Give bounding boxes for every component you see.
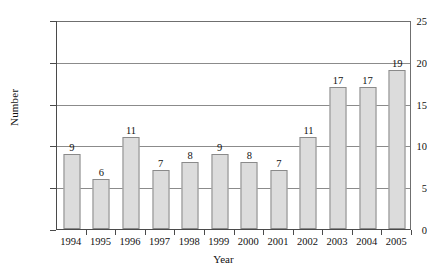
bar-value-label: 17 — [333, 75, 344, 86]
bar-slot: 7 — [264, 21, 294, 229]
x-axis-tick-mark — [263, 230, 264, 235]
bar-value-label: 8 — [247, 150, 252, 161]
x-axis-tick-mark — [115, 230, 116, 235]
bar[interactable] — [182, 162, 199, 229]
bar-slot: 7 — [146, 21, 176, 229]
bar-value-label: 9 — [69, 142, 74, 153]
bar[interactable] — [300, 137, 317, 229]
bar-value-label: 7 — [158, 158, 163, 169]
bar-value-label: 11 — [303, 125, 313, 136]
y-axis-tick-mark — [50, 230, 56, 231]
x-axis-tick-mark — [86, 230, 87, 235]
bar-slot: 8 — [235, 21, 265, 229]
x-axis-tick-mark — [293, 230, 294, 235]
x-axis-tick-mark — [145, 230, 146, 235]
bar[interactable] — [389, 70, 406, 229]
bar-slot: 6 — [87, 21, 117, 229]
plot-area: 96117898711171719 — [56, 21, 411, 230]
x-axis-tick-mark — [352, 230, 353, 235]
bar-slot: 19 — [382, 21, 412, 229]
bar-value-label: 9 — [217, 142, 222, 153]
bar-slot: 9 — [205, 21, 235, 229]
gridline — [57, 105, 410, 106]
x-axis-tick-mark — [204, 230, 205, 235]
bar-slot: 17 — [323, 21, 353, 229]
bar-slot: 8 — [175, 21, 205, 229]
bar-slot: 11 — [294, 21, 324, 229]
y-axis-title: Number — [8, 102, 20, 126]
bar[interactable] — [122, 137, 139, 229]
x-axis-tick-label: 2005 — [376, 236, 416, 247]
bar[interactable] — [330, 87, 347, 229]
gridline — [57, 63, 410, 64]
bar-chart: Number Year 0510152025 19941995199619971… — [0, 0, 427, 276]
bar[interactable] — [152, 170, 169, 229]
bar-slot: 9 — [57, 21, 87, 229]
gridline — [57, 21, 410, 22]
x-axis-tick-mark — [411, 230, 412, 235]
x-axis-tick-mark — [234, 230, 235, 235]
x-axis-title: Year — [0, 253, 427, 265]
x-axis-tick-mark — [174, 230, 175, 235]
x-axis-title-text: Year — [213, 253, 233, 265]
bar-value-label: 6 — [99, 167, 104, 178]
bar[interactable] — [93, 179, 110, 229]
bar[interactable] — [211, 154, 228, 229]
bar-value-label: 7 — [276, 158, 281, 169]
bar-slot: 11 — [116, 21, 146, 229]
bar-value-label: 17 — [362, 75, 373, 86]
bar-value-label: 8 — [187, 150, 192, 161]
bar[interactable] — [270, 170, 287, 229]
bar-value-label: 11 — [126, 125, 136, 136]
bar-slot: 17 — [353, 21, 383, 229]
bar[interactable] — [63, 154, 80, 229]
bar-value-label: 19 — [392, 58, 403, 69]
bar[interactable] — [359, 87, 376, 229]
gridline — [57, 146, 410, 147]
x-axis-tick-mark — [381, 230, 382, 235]
gridline — [57, 188, 410, 189]
bar[interactable] — [241, 162, 258, 229]
x-axis-tick-mark — [322, 230, 323, 235]
